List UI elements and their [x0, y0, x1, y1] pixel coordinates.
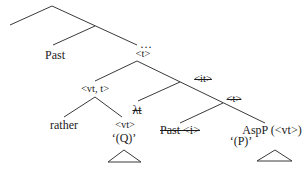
- gloss-q: ‘(Q)’: [112, 132, 137, 144]
- triangle-p: [257, 150, 292, 161]
- edge-to-lambda: [138, 82, 180, 101]
- node-lambda-t-struck: λt: [132, 104, 141, 116]
- node-vt-t: <vt, t>: [81, 84, 109, 95]
- node-t: <t>: [136, 49, 151, 60]
- node-vt: <vt>: [115, 120, 135, 131]
- edge-vtt-to-rather: [64, 97, 95, 117]
- triangle-q: [108, 150, 141, 162]
- edge-to-past: [53, 26, 95, 45]
- node-t-struck: <t>: [227, 94, 242, 105]
- edge-t-to-vtt: [95, 61, 137, 81]
- edge-root-left: [10, 6, 52, 25]
- gloss-p: ‘(P)’: [230, 135, 253, 147]
- node-rather: rather: [50, 119, 78, 131]
- edge-to-past-i: [180, 103, 223, 123]
- node-it-struck: <it>: [194, 74, 212, 85]
- node-past-i-struck: Past <i>: [160, 124, 200, 136]
- node-past: Past: [45, 49, 65, 61]
- edge-vtt-to-vt: [95, 97, 122, 117]
- tree-lines: [0, 0, 308, 171]
